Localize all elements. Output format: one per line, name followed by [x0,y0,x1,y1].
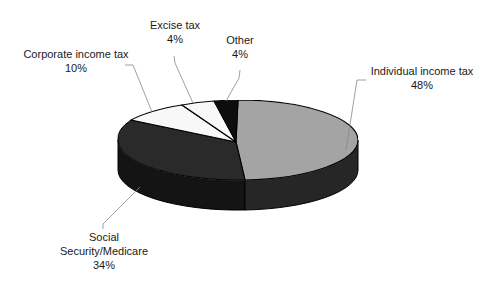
pie-top [118,100,358,180]
label-other-name: Other [218,33,262,47]
label-other: Other 4% [218,33,262,61]
label-other-pct: 4% [218,47,262,61]
label-excise-tax: Excise tax 4% [145,18,205,46]
label-excise-name: Excise tax [145,18,205,32]
label-individual-name: Individual income tax [368,64,476,78]
leader-excise [174,56,193,103]
label-social-pct: 34% [52,258,156,272]
label-corporate-name: Corporate income tax [22,47,130,61]
label-social-line1: Social [52,230,156,244]
label-social-security-medicare: Social Security/Medicare 34% [52,230,156,272]
label-excise-pct: 4% [145,32,205,46]
leader-other [226,70,240,101]
label-individual-pct: 48% [368,78,476,92]
leader-social [103,187,140,229]
label-corporate-pct: 10% [22,61,130,75]
label-individual-income-tax: Individual income tax 48% [368,64,476,92]
label-social-line2: Security/Medicare [52,244,156,258]
label-corporate-income-tax: Corporate income tax 10% [22,47,130,75]
